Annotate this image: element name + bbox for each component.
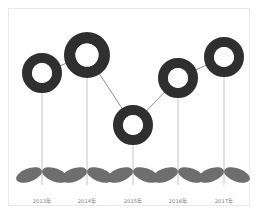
donut-marker-hole bbox=[123, 115, 143, 135]
connector-line bbox=[99, 73, 122, 109]
x-tick-label: 2014年 bbox=[78, 197, 97, 204]
donut-marker: 2014年: 82 bbox=[70, 38, 105, 73]
donut-marker-group: 2013年: 682014年: 822015年: 382016年: 642017… bbox=[27, 38, 239, 140]
x-tick-label: 2013年 bbox=[33, 197, 52, 204]
x-tick-label: 2017年 bbox=[215, 197, 234, 204]
leaf-shape bbox=[105, 164, 135, 186]
donut-marker-hole bbox=[76, 44, 99, 67]
infographic-line-chart: 2013年: 682014年: 822015年: 382016年: 642017… bbox=[0, 0, 262, 219]
x-tick-label: 2015年 bbox=[124, 197, 143, 204]
connector-line bbox=[146, 92, 165, 112]
donut-marker: 2015年: 38 bbox=[118, 110, 148, 140]
leaf-shape bbox=[14, 164, 44, 186]
leaf-shape bbox=[222, 164, 252, 186]
donut-marker-hole bbox=[214, 47, 234, 67]
connector-line bbox=[195, 65, 206, 70]
donut-marker: 2013年: 68 bbox=[27, 58, 57, 88]
donut-marker: 2016年: 64 bbox=[163, 63, 193, 93]
leaf-shape bbox=[150, 164, 180, 186]
x-tick-label: 2016年 bbox=[169, 197, 188, 204]
leaf-shape bbox=[59, 164, 89, 186]
donut-marker-hole bbox=[168, 68, 188, 88]
donut-marker-hole bbox=[32, 63, 52, 83]
connector-line bbox=[60, 63, 67, 66]
chart-plot-area: 2013年: 682014年: 822015年: 382016年: 642017… bbox=[0, 0, 262, 219]
leaf-shape bbox=[196, 164, 226, 186]
donut-marker: 2017年: 80 bbox=[209, 42, 239, 72]
